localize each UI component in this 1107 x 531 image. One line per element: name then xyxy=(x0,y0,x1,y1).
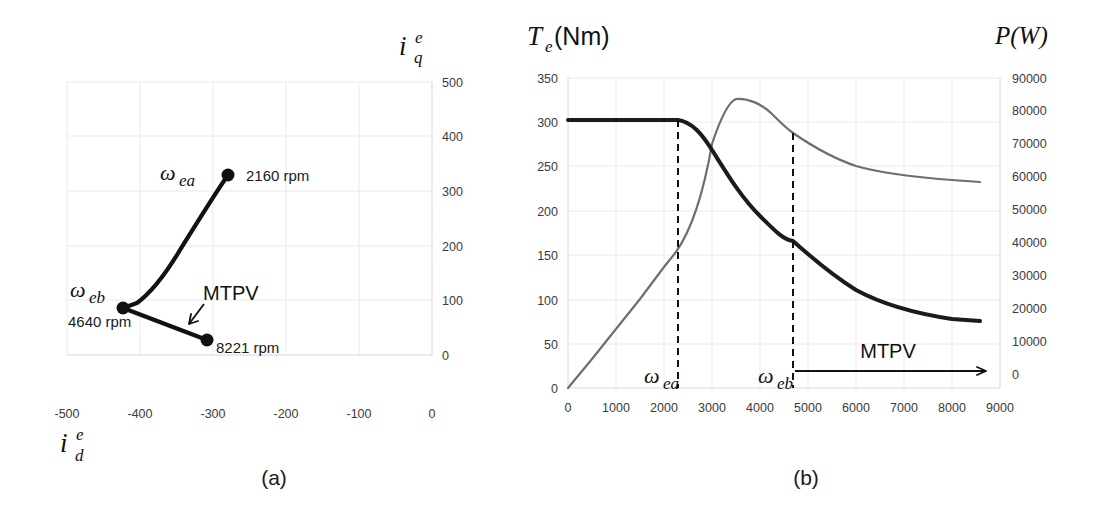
y-tick-label: 0 xyxy=(442,349,449,363)
omega-ea-subscript: ea xyxy=(663,374,679,393)
left-tick-label: 350 xyxy=(537,72,558,86)
left-tick-label: 300 xyxy=(537,116,558,130)
left-tick-label: 100 xyxy=(537,294,558,308)
x-tick-label: 9000 xyxy=(986,401,1014,415)
x-axis-title-sup: e xyxy=(76,425,84,444)
panel-b-caption: (b) xyxy=(793,466,819,489)
x-tick-label: 0 xyxy=(565,401,572,415)
x-tick-label: -500 xyxy=(54,407,79,421)
left-tick-label: 200 xyxy=(537,205,558,219)
right-tick-label: 10000 xyxy=(1012,335,1047,349)
right-tick-label: 50000 xyxy=(1012,203,1047,217)
speed-label-2160: 2160 rpm xyxy=(246,167,309,184)
y-tick-label: 100 xyxy=(442,294,463,308)
y-axis-title-sup: e xyxy=(415,28,423,47)
mtpv-label-b: MTPV xyxy=(860,340,916,362)
speed-label-8221: 8221 rpm xyxy=(216,339,279,356)
omega-ea-subscript: ea xyxy=(179,171,195,190)
right-tick-label: 70000 xyxy=(1012,137,1047,151)
x-tick-label: 4000 xyxy=(746,401,774,415)
y-tick-label: 300 xyxy=(442,185,463,199)
figure-svg: i e q 500 400 300 200 100 0 -500 -400 -3… xyxy=(0,0,1107,531)
omega-eb-symbol: ω xyxy=(70,277,86,302)
x-tick-label: -200 xyxy=(273,407,298,421)
x-tick-label: -100 xyxy=(346,407,371,421)
right-tick-label: 30000 xyxy=(1012,269,1047,283)
left-axis-title-unit: (Nm) xyxy=(554,22,610,50)
x-axis-title-main: i xyxy=(60,428,68,458)
y-axis-title-main: i xyxy=(399,31,407,61)
left-tick-label: 250 xyxy=(537,160,558,174)
mtpv-label-a: MTPV xyxy=(203,282,259,304)
right-tick-label: 90000 xyxy=(1012,72,1047,86)
omega-eb-subscript: eb xyxy=(89,288,105,307)
right-tick-label: 40000 xyxy=(1012,236,1047,250)
x-tick-label: 3000 xyxy=(698,401,726,415)
figure-container: i e q 500 400 300 200 100 0 -500 -400 -3… xyxy=(0,0,1107,531)
x-tick-label: 0 xyxy=(429,407,436,421)
x-tick-label: 6000 xyxy=(842,401,870,415)
omega-eb-symbol: ω xyxy=(758,363,774,388)
speed-label-4640: 4640 rpm xyxy=(68,313,131,330)
omega-ea-symbol: ω xyxy=(160,160,176,185)
omega-ea-symbol: ω xyxy=(644,363,660,388)
left-axis-title-main: T xyxy=(527,21,544,51)
marker-8221-rpm xyxy=(201,334,214,347)
y-tick-label: 200 xyxy=(442,240,463,254)
marker-omega-ea xyxy=(222,169,235,182)
left-tick-label: 0 xyxy=(551,382,558,396)
left-tick-label: 150 xyxy=(537,249,558,263)
right-tick-label: 60000 xyxy=(1012,170,1047,184)
right-tick-label: 0 xyxy=(1012,368,1019,382)
x-tick-label: 8000 xyxy=(938,401,966,415)
left-tick-label: 50 xyxy=(544,338,558,352)
y-tick-label: 500 xyxy=(442,76,463,90)
panel-a-caption: (a) xyxy=(261,466,287,489)
y-tick-label: 400 xyxy=(442,130,463,144)
right-tick-label: 80000 xyxy=(1012,104,1047,118)
right-tick-label: 20000 xyxy=(1012,302,1047,316)
x-tick-label: -300 xyxy=(200,407,225,421)
x-tick-label: 2000 xyxy=(650,401,678,415)
left-axis-title-sub: e xyxy=(545,37,553,56)
y-axis-title-sub: q xyxy=(414,48,423,67)
x-tick-label: 1000 xyxy=(602,401,630,415)
x-tick-label: -400 xyxy=(127,407,152,421)
omega-eb-subscript: eb xyxy=(777,374,793,393)
right-axis-title: P(W) xyxy=(994,22,1048,50)
x-axis-title-sub: d xyxy=(75,446,84,465)
x-tick-label: 5000 xyxy=(794,401,822,415)
x-tick-label: 7000 xyxy=(890,401,918,415)
